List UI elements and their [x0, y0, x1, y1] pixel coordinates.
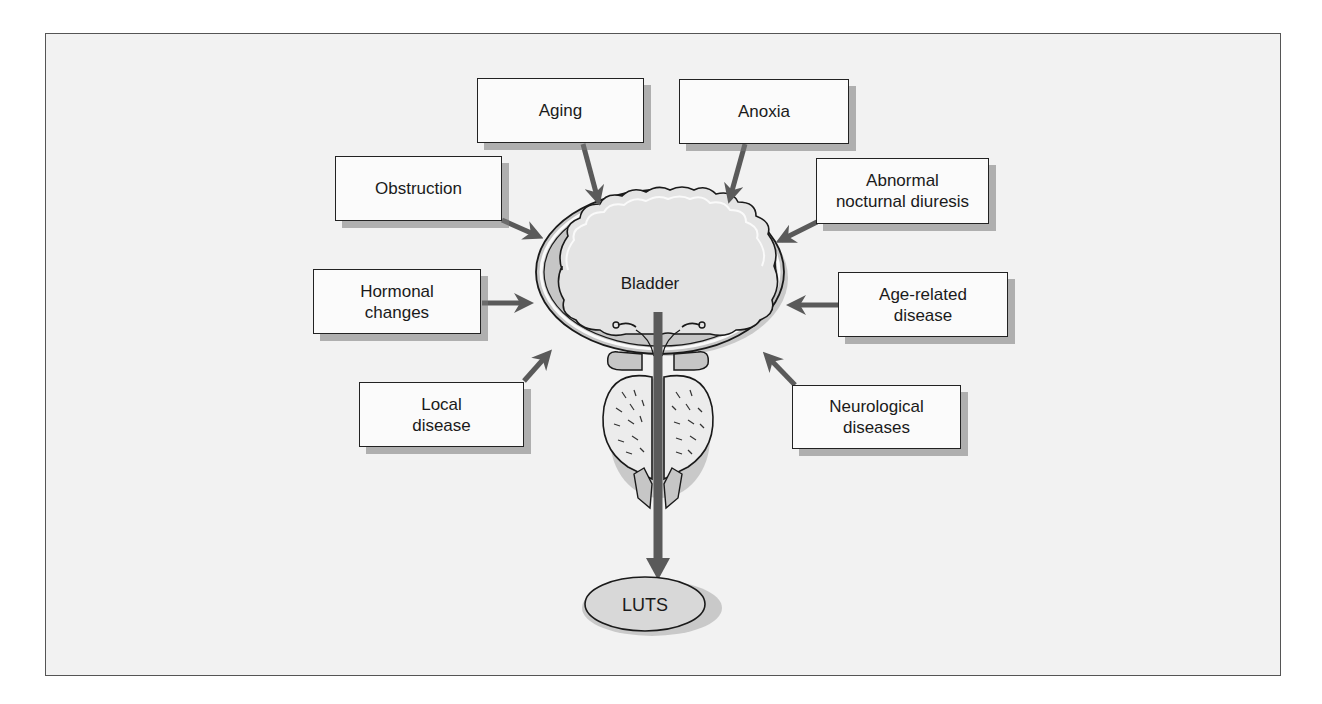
arrow-abnormal-nocturnal-diuresis — [781, 222, 817, 240]
arrow-anoxia — [730, 144, 745, 198]
factor-box-abnormal-nocturnal-diuresis: Abnormal nocturnal diuresis — [816, 158, 989, 224]
factor-box-anoxia: Anoxia — [679, 79, 849, 144]
factor-box-age-related-disease: Age-related disease — [838, 272, 1008, 337]
diagram-canvas: LUTS Bladder Aging Anoxia Obstruction Ab… — [0, 0, 1322, 704]
factor-box-local-disease: Local disease — [359, 382, 524, 447]
arrow-obstruction — [502, 220, 538, 236]
arrow-local-disease — [524, 354, 548, 381]
bladder-label: Bladder — [621, 274, 680, 293]
diagram-illustration: LUTS Bladder — [0, 0, 1322, 704]
factor-label: Neurological diseases — [829, 396, 924, 438]
arrow-neurological-diseases — [767, 356, 795, 385]
arrow-aging — [583, 144, 598, 200]
factor-label: Hormonal changes — [360, 281, 434, 323]
luts-label: LUTS — [622, 595, 668, 615]
factor-box-neurological-diseases: Neurological diseases — [792, 385, 961, 449]
factor-label: Anoxia — [738, 101, 790, 122]
factor-box-obstruction: Obstruction — [335, 156, 502, 221]
factor-label: Obstruction — [375, 178, 462, 199]
factor-box-aging: Aging — [477, 78, 644, 143]
factor-label: Aging — [539, 100, 582, 121]
factor-label: Local disease — [412, 394, 471, 436]
factor-label: Abnormal nocturnal diuresis — [836, 170, 969, 212]
factor-label: Age-related disease — [879, 284, 967, 326]
factor-box-hormonal-changes: Hormonal changes — [313, 269, 481, 334]
